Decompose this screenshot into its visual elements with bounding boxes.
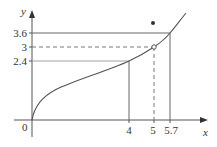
xtick-label-4: 4	[126, 124, 132, 136]
x-axis-label: x	[202, 126, 208, 138]
ytick-label-3: 3	[22, 41, 28, 53]
y-axis-arrow-icon	[29, 10, 35, 18]
ytick-label-2.4: 2.4	[13, 55, 27, 67]
function-curve	[32, 13, 186, 120]
xtick-label-5.7: 5.7	[164, 124, 178, 136]
y-axis-label: y	[20, 5, 26, 17]
open-circle-marker	[152, 45, 156, 49]
function-graph: y x 0 3.6 3 2.4 4 5 5.7	[0, 0, 217, 147]
origin-label: 0	[22, 121, 28, 133]
x-axis-arrow-icon	[200, 117, 208, 123]
ytick-label-3.6: 3.6	[13, 27, 27, 39]
isolated-dot	[151, 21, 155, 25]
xtick-label-5: 5	[150, 124, 156, 136]
